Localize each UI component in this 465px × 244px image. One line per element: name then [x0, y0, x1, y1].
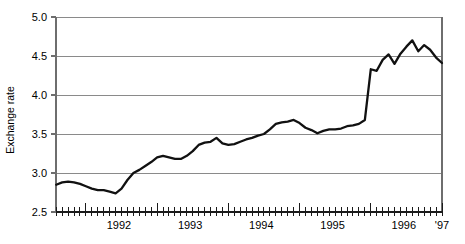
- gridlines: [56, 17, 442, 173]
- x-axis-tick-labels: 19921993199419951996'97: [107, 219, 450, 231]
- x-axis-ticks: [56, 203, 442, 216]
- x-tick-label-1996: 1996: [392, 219, 416, 231]
- y-tick-label-5.0: 5.0: [32, 11, 47, 23]
- x-tick-label-1993: 1993: [178, 219, 202, 231]
- x-tick-label-1995: 1995: [320, 219, 344, 231]
- chart-canvas: 2.53.03.54.04.55.0 19921993199419951996'…: [0, 0, 465, 244]
- exchange-rate-line: [56, 40, 442, 193]
- x-tick-label-97: '97: [435, 219, 449, 231]
- y-tick-label-4.0: 4.0: [32, 89, 47, 101]
- y-tick-label-3.0: 3.0: [32, 167, 47, 179]
- y-axis-ticks: 2.53.03.54.04.55.0: [32, 11, 56, 218]
- y-tick-label-4.5: 4.5: [32, 50, 47, 62]
- x-tick-label-1994: 1994: [249, 219, 273, 231]
- exchange-rate-chart: 2.53.03.54.04.55.0 19921993199419951996'…: [0, 0, 465, 244]
- x-tick-label-1992: 1992: [107, 219, 131, 231]
- y-tick-label-2.5: 2.5: [32, 206, 47, 218]
- y-tick-label-3.5: 3.5: [32, 128, 47, 140]
- y-axis-title: Exchange rate: [4, 86, 16, 154]
